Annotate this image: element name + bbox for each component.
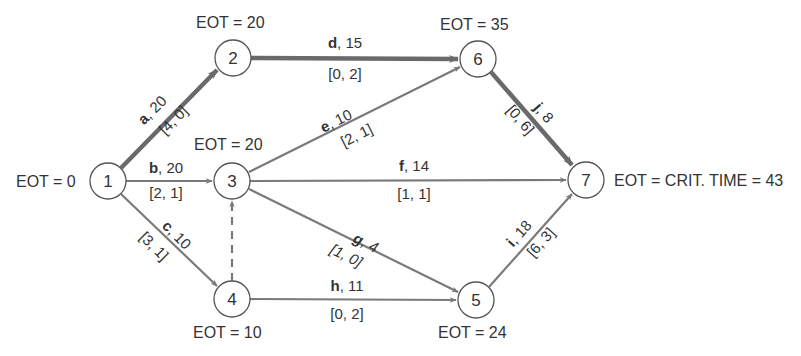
- edge-b-bracket: [2, 1]: [149, 184, 182, 201]
- svg-text:7: 7: [581, 171, 590, 190]
- node-5: 5: [458, 282, 494, 318]
- edge-h-bracket: [0, 2]: [330, 305, 363, 322]
- node-3: 3: [214, 163, 250, 199]
- node-2: 2: [215, 40, 251, 76]
- edge-f-label: f, 14: [399, 157, 429, 174]
- edge-f: [250, 180, 566, 181]
- edge-h: [250, 299, 456, 300]
- edge-c: [121, 194, 217, 286]
- eot-node-4: EOT = 10: [193, 324, 262, 341]
- network-diagram: a, 20 [4, 0] b, 20 [2, 1] c, 10 [3, 1] d…: [0, 0, 801, 356]
- svg-text:4: 4: [227, 290, 236, 309]
- eot-node-5: EOT = 24: [438, 324, 507, 341]
- eot-node-1: EOT = 0: [16, 173, 76, 190]
- svg-text:6: 6: [473, 50, 482, 69]
- svg-text:1: 1: [103, 172, 112, 191]
- edge-h-label: h, 11: [330, 277, 363, 294]
- node-4: 4: [214, 281, 250, 317]
- edge-d-bracket: [0, 2]: [328, 65, 361, 82]
- eot-node-7: EOT = CRIT. TIME = 43: [614, 172, 783, 189]
- eot-node-2: EOT = 20: [196, 14, 265, 31]
- edge-b-label: b, 20: [149, 159, 183, 176]
- node-7: 7: [568, 162, 604, 198]
- svg-text:3: 3: [227, 172, 236, 191]
- eot-node-6: EOT = 35: [440, 16, 509, 33]
- edge-d-label: d, 15: [328, 34, 362, 51]
- node-1: 1: [90, 163, 126, 199]
- svg-text:2: 2: [228, 49, 237, 68]
- edge-f-bracket: [1, 1]: [397, 185, 430, 202]
- node-6: 6: [460, 41, 496, 77]
- svg-text:5: 5: [471, 291, 480, 310]
- eot-node-3: EOT = 20: [194, 136, 263, 153]
- edge-d: [251, 58, 458, 59]
- edge-j-bracket: [0, 6]: [503, 101, 538, 137]
